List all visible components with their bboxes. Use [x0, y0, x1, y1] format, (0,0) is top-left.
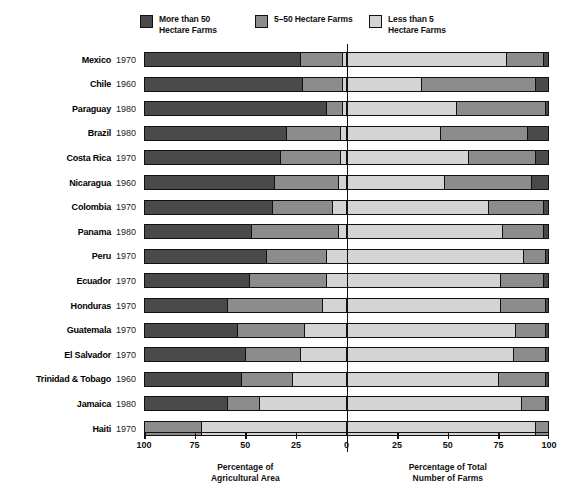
bar-segment-area	[333, 201, 347, 214]
row-country-name: Colombia	[72, 202, 111, 212]
bar-segment-area	[145, 373, 242, 386]
row-year: 1970	[116, 251, 140, 261]
axis-tick	[548, 433, 550, 439]
row-country-name: Guatemala	[67, 325, 111, 335]
axis-tick	[397, 433, 399, 439]
row-country-name: Mexico	[82, 55, 111, 65]
row-year: 1980	[116, 227, 140, 237]
row-country-name: El Salvador	[64, 350, 111, 360]
row-label: Paraguay1980	[0, 101, 140, 116]
row-year: 1970	[116, 301, 140, 311]
row-country-name: Chile	[90, 79, 111, 89]
row-country-name: Costa Rica	[66, 153, 111, 163]
bar-segment-farms	[422, 78, 535, 91]
bar-segment-area	[293, 373, 348, 386]
axis-tick	[245, 433, 247, 439]
row-label: El Salvador1970	[0, 347, 140, 362]
bar-segment-area	[275, 176, 340, 189]
row-label: Honduras1970	[0, 298, 140, 313]
bar-segment-area	[145, 274, 250, 287]
row-label: Chile1960	[0, 77, 140, 92]
legend-item-1[interactable]: 5–50 Hectare Farms	[255, 14, 353, 28]
bar-segment-farms	[516, 324, 546, 337]
bar-segment-farms	[348, 176, 445, 189]
bar-segment-farms	[544, 274, 549, 287]
legend-item-2[interactable]: Less than 5 Hectare Farms	[369, 14, 446, 35]
bar-segment-farms	[546, 348, 549, 361]
bar-segment-farms	[348, 78, 423, 91]
bar-segment-area	[145, 201, 273, 214]
bar-segment-area	[327, 102, 343, 115]
row-year: 1970	[116, 325, 140, 335]
legend-swatch-icon	[369, 15, 382, 28]
bar-segment-farms	[499, 373, 546, 386]
bar-segment-area	[145, 78, 303, 91]
bar-segment-farms	[348, 348, 514, 361]
row-year: 1970	[116, 424, 140, 434]
bar-segment-farms	[348, 225, 504, 238]
row-country-name: Panama	[78, 227, 111, 237]
axis-tick-label: 25	[382, 440, 412, 450]
axis-tick-label: 75	[180, 440, 210, 450]
bar-segment-farms	[532, 176, 549, 189]
bar-segment-farms	[546, 299, 549, 312]
row-label: Peru1970	[0, 249, 140, 264]
row-country-name: Brazil	[88, 128, 111, 138]
axis-tick-label: 0	[332, 440, 362, 450]
row-label: Brazil1980	[0, 126, 140, 141]
row-label: Mexico1970	[0, 52, 140, 67]
bar-segment-area	[260, 397, 347, 410]
bar-segment-farms	[546, 324, 549, 337]
bar-segment-farms	[348, 53, 508, 66]
row-year: 1960	[116, 178, 140, 188]
axis-tick-label: 75	[483, 440, 513, 450]
bar-segment-area	[305, 324, 348, 337]
bar-segment-farms	[546, 250, 549, 263]
bar-segment-farms	[522, 397, 546, 410]
row-country-name: Honduras	[71, 301, 111, 311]
bar-segment-farms	[528, 127, 549, 140]
bar-segment-farms	[544, 53, 549, 66]
bar-segment-farms	[348, 397, 522, 410]
row-country-name: Peru	[92, 251, 111, 261]
row-label: Guatemala1970	[0, 323, 140, 338]
axis-tick	[144, 433, 146, 439]
chart-legend: More than 50 Hectare Farms5–50 Hectare F…	[140, 14, 460, 48]
bar-segment-farms	[524, 250, 546, 263]
bar-segment-area	[145, 397, 228, 410]
bar-segment-farms	[348, 151, 470, 164]
axis-tick-label: 50	[433, 440, 463, 450]
axis-tick	[498, 433, 500, 439]
row-label: Nicaragua1960	[0, 175, 140, 190]
axis-tick	[448, 433, 450, 439]
bar-segment-area	[145, 348, 246, 361]
bar-segment-farms	[501, 299, 546, 312]
row-label: Haiti1970	[0, 421, 140, 436]
bar-segment-area	[145, 127, 287, 140]
legend-swatch-icon	[140, 15, 153, 28]
axis-tick-label: 25	[281, 440, 311, 450]
legend-label: 5–50 Hectare Farms	[274, 14, 353, 25]
row-country-name: Haiti	[92, 424, 111, 434]
bar-segment-farms	[348, 201, 490, 214]
bar-segment-farms	[348, 127, 441, 140]
bar-segment-area	[145, 102, 327, 115]
bar-segment-farms	[348, 373, 500, 386]
row-label: Jamaica1980	[0, 396, 140, 411]
bar-segment-area	[238, 324, 305, 337]
bar-segment-area	[228, 299, 323, 312]
bar-segment-farms	[507, 53, 543, 66]
bar-segment-area	[273, 201, 334, 214]
row-year: 1970	[116, 350, 140, 360]
bar-segment-area	[145, 225, 252, 238]
bar-segment-area	[287, 127, 342, 140]
bar-segment-area	[252, 225, 339, 238]
x-axis-title-right: Percentage of Total Number of Farms	[368, 462, 528, 484]
bar-segment-farms	[536, 151, 549, 164]
row-label: Ecuador1970	[0, 273, 140, 288]
legend-item-0[interactable]: More than 50 Hectare Farms	[140, 14, 217, 35]
row-year: 1960	[116, 79, 140, 89]
bar-segment-area	[145, 151, 281, 164]
bar-segment-farms	[536, 78, 549, 91]
legend-label: Less than 5 Hectare Farms	[388, 14, 446, 35]
